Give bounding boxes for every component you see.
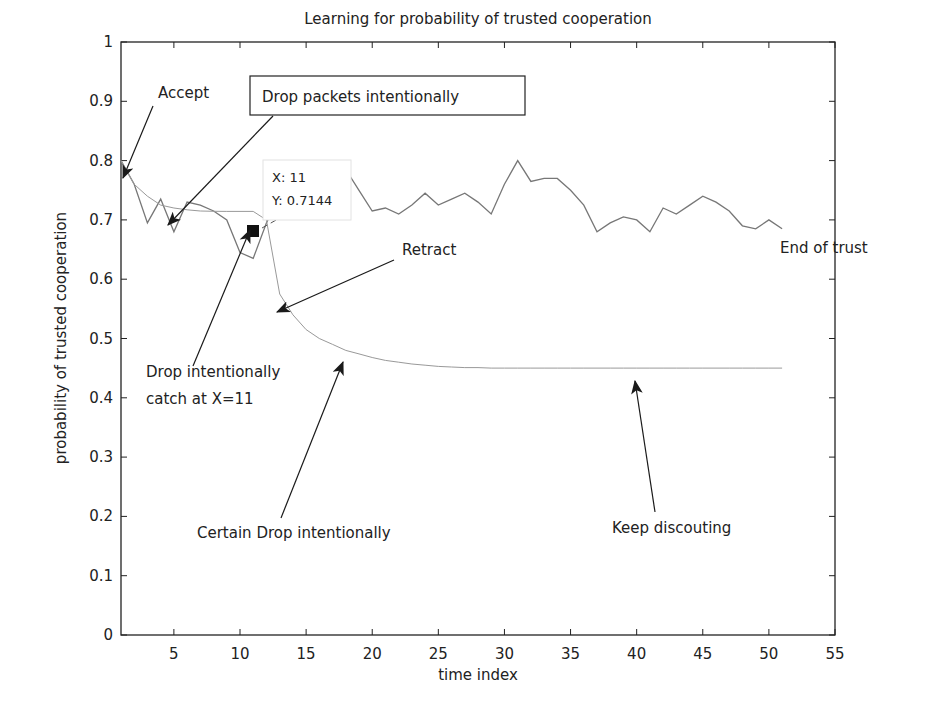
annotation-accept: Accept	[158, 84, 209, 102]
y-tick-label: 0	[103, 626, 113, 644]
y-tick-label: 0.7	[89, 211, 113, 229]
x-tick-label: 20	[363, 645, 382, 663]
x-tick-label: 15	[297, 645, 316, 663]
x-tick-label: 5	[169, 645, 179, 663]
annotation-certain-drop: Certain Drop intentionally	[197, 524, 391, 542]
arrow-accept-icon	[123, 106, 153, 178]
arrow-drop-catch-icon	[193, 230, 250, 366]
annotations: Accept Drop packets intentionally Drop i…	[123, 76, 868, 542]
y-axis-label: probability of trusted cooperation	[52, 212, 70, 464]
x-tick-label: 35	[561, 645, 580, 663]
annotation-drop-packets: Drop packets intentionally	[262, 88, 459, 106]
datatip-x: X: 11	[272, 170, 306, 185]
y-tick-label: 1	[103, 33, 113, 51]
annotation-keep-discouting: Keep discouting	[612, 519, 731, 537]
datatip[interactable]: X: 11 Y: 0.7144	[247, 160, 351, 237]
y-tick-label: 0.1	[89, 567, 113, 585]
x-tick-label: 40	[627, 645, 646, 663]
y-tick-label: 0.9	[89, 92, 113, 110]
datatip-box	[263, 160, 351, 220]
x-tick-label: 55	[825, 645, 844, 663]
annotation-end-of-trust: End of trust	[780, 239, 868, 257]
annotation-drop-catch-line1: Drop intentionally	[146, 363, 280, 381]
x-tick-label: 30	[495, 645, 514, 663]
y-tick-label: 0.3	[89, 448, 113, 466]
arrow-drop-packets-icon	[168, 116, 273, 225]
y-tick-label: 0.5	[89, 330, 113, 348]
x-axis-label: time index	[438, 666, 518, 684]
chart: Learning for probability of trusted coop…	[0, 0, 938, 725]
y-tick-label: 0.4	[89, 389, 113, 407]
datatip-y: Y: 0.7144	[271, 193, 332, 208]
learned-trust-line	[121, 161, 782, 369]
arrow-keep-discouting-icon	[635, 381, 655, 512]
x-tick-label: 10	[230, 645, 249, 663]
arrow-retract-icon	[277, 260, 394, 312]
annotation-drop-catch-line2: catch at X=11	[146, 390, 254, 408]
y-tick-label: 0.6	[89, 270, 113, 288]
chart-title: Learning for probability of trusted coop…	[304, 10, 652, 28]
x-tick-label: 50	[759, 645, 778, 663]
y-tick-label: 0.2	[89, 507, 113, 525]
y-axis-ticks: 00.10.20.30.40.50.60.70.80.91	[89, 33, 835, 644]
x-axis-ticks: 510152025303540455055	[169, 42, 844, 663]
arrow-certain-drop-icon	[281, 362, 343, 518]
plot-area	[121, 42, 835, 635]
x-tick-label: 25	[429, 645, 448, 663]
y-tick-label: 0.8	[89, 152, 113, 170]
x-tick-label: 45	[693, 645, 712, 663]
annotation-retract: Retract	[402, 241, 456, 259]
datatip-marker-icon[interactable]	[247, 225, 259, 237]
